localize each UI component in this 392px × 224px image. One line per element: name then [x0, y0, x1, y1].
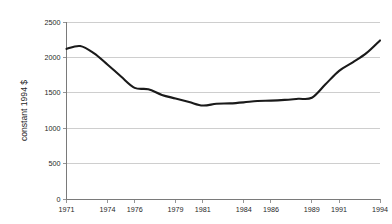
x-tick-label-1979: 1979 [168, 205, 184, 214]
gridlines-group [67, 22, 381, 164]
x-tick-label-1971: 1971 [59, 205, 75, 214]
chart-container: 05001000150020002500 1971197419761979198… [0, 0, 392, 224]
y-tick-label-500: 500 [49, 159, 61, 168]
x-tick-label-1986: 1986 [263, 205, 279, 214]
y-axis-title: constant 1994 $ [19, 80, 29, 141]
axes-group [67, 22, 381, 199]
x-tick-label-1984: 1984 [236, 205, 252, 214]
y-tick-label-1500: 1500 [45, 88, 61, 97]
series-line-constant-1994-dollars [67, 40, 381, 105]
y-axis-title-group: constant 1994 $ [19, 80, 29, 141]
x-tick-labels-group: 1971197419761979198119841986198919911994 [59, 199, 389, 214]
x-tick-label-1976: 1976 [127, 205, 143, 214]
y-tick-label-2500: 2500 [45, 18, 61, 27]
series-group [67, 40, 381, 105]
y-tick-label-1000: 1000 [45, 124, 61, 133]
y-tick-label-0: 0 [57, 195, 61, 204]
y-tick-labels-group: 05001000150020002500 [45, 18, 67, 204]
line-chart: 05001000150020002500 1971197419761979198… [0, 0, 392, 224]
x-tick-label-1989: 1989 [304, 205, 320, 214]
y-tick-label-2000: 2000 [45, 53, 61, 62]
x-tick-label-1991: 1991 [331, 205, 347, 214]
x-tick-label-1974: 1974 [99, 205, 115, 214]
x-tick-label-1981: 1981 [195, 205, 211, 214]
x-tick-label-1994: 1994 [372, 205, 388, 214]
